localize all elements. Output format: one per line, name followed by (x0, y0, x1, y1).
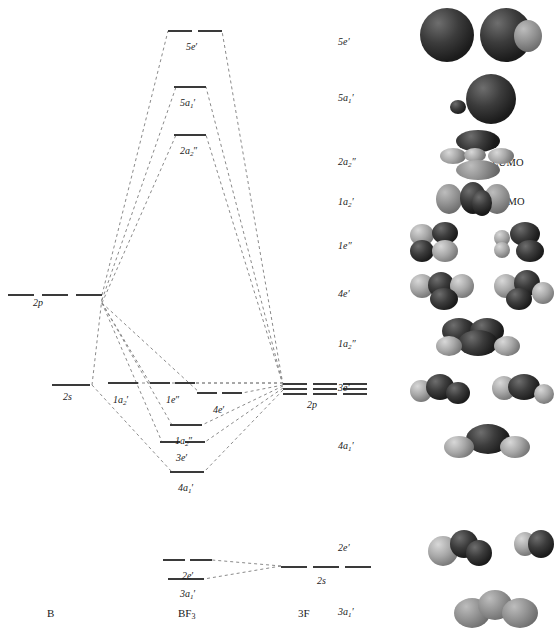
level-label-f-2s: 2s (317, 576, 326, 586)
energy-level-f-2s (345, 566, 371, 568)
orbital-row-label-row-5a1-prime: 5a1′ (338, 92, 354, 105)
energy-level-2e-prime (190, 559, 212, 561)
orbital-picture-5e-prime (418, 6, 554, 68)
lobe (466, 74, 516, 124)
energy-level-b-2s (52, 384, 90, 386)
energy-level-f-2s (313, 566, 339, 568)
orbital-row-label-row-1a2-prime: 1a2′ (338, 196, 354, 209)
orbital-picture-1a2-dprime (432, 318, 548, 364)
axis-label-bf3: BF3 (178, 607, 195, 621)
orbital-picture-2e-prime (428, 530, 554, 570)
level-label-b-2p: 2p (33, 298, 43, 308)
energy-level-f-2p (283, 388, 307, 390)
lobe (494, 242, 510, 258)
energy-level-1e-dprime (175, 382, 195, 384)
energy-level-4e-prime (197, 392, 217, 394)
corr-f2p-2a2 (206, 135, 283, 385)
level-label-1a2-dprime: 1a2″ (175, 436, 193, 448)
axis-label-3f: 3F (298, 607, 310, 619)
corr-f2p-4a1 (204, 390, 283, 472)
lobe (440, 148, 466, 164)
lobe (444, 436, 474, 458)
corr-b2p-5a1 (102, 87, 176, 300)
lobe (500, 436, 530, 458)
orbital-row-label-row-5e-prime: 5e′ (338, 36, 350, 47)
lobe (432, 240, 458, 262)
lobe (450, 100, 466, 114)
energy-level-1a2-prime (108, 382, 138, 384)
lobe (516, 240, 544, 262)
corr-f2p-5a1 (206, 87, 283, 385)
corr-b2p-2a2 (102, 135, 176, 303)
orbital-picture-1e-dprime (410, 222, 554, 264)
corr-b2p-5e (102, 31, 168, 295)
level-label-3a1-prime: 3a1′ (180, 589, 196, 601)
level-label-4a1-prime: 4a1′ (178, 483, 194, 495)
level-label-1e-dprime: 1e″ (166, 395, 180, 405)
energy-level-f-2p (313, 388, 337, 390)
orbital-picture-5a1-prime (448, 74, 548, 126)
lobe (472, 190, 492, 216)
level-label-4e-prime: 4e′ (213, 405, 225, 415)
lobe (528, 530, 554, 558)
level-label-b-2s: 2s (63, 392, 72, 402)
energy-level-1a2-dprime (170, 424, 202, 426)
lobe (458, 330, 498, 356)
orbital-picture-2a2-dprime (434, 130, 544, 182)
lobe (506, 288, 532, 310)
orbital-row-label-row-4a1-prime: 4a1′ (338, 440, 354, 453)
lobe (436, 184, 462, 214)
energy-level-b-2p (8, 294, 34, 296)
lobe (456, 160, 500, 180)
corr-b2p-4e (102, 303, 200, 393)
energy-level-4a1-prime (170, 471, 204, 473)
orbital-picture-1a2-prime (434, 182, 544, 218)
orbital-row-label-row-2e-prime: 2e′ (338, 542, 350, 553)
orbital-picture-3e-prime (410, 372, 554, 410)
energy-level-f-2p (313, 393, 337, 395)
level-label-3e-prime: 3e′ (176, 453, 188, 463)
energy-level-f-2p (343, 393, 367, 395)
corr-f2p-5e (222, 31, 283, 385)
lobe (514, 20, 542, 52)
orbital-row-label-row-1e-dprime: 1e″ (338, 240, 352, 251)
energy-level-f-2s (281, 566, 307, 568)
level-label-f-2p: 2p (307, 400, 317, 410)
level-label-2e-prime: 2e′ (182, 571, 194, 581)
energy-level-5e-prime (198, 30, 222, 32)
orbital-row-label-row-3e-prime: 3e′ (338, 382, 350, 393)
level-label-2a2-dprime: 2a2″ (180, 146, 198, 158)
orbital-row-label-row-1a2-dprime: 1a2″ (338, 338, 356, 351)
corr-f2s-2e (212, 560, 281, 566)
energy-level-f-2p (313, 383, 337, 385)
corr-f2s-3a1 (204, 566, 281, 579)
orbital-picture-4e-prime (410, 270, 554, 314)
lobe (430, 288, 458, 310)
energy-level-b-2p (76, 294, 102, 296)
corr-f2p-3e (205, 388, 283, 442)
energy-level-5a1-prime (174, 86, 206, 88)
lobe (534, 384, 554, 404)
energy-level-5e-prime (168, 30, 192, 32)
energy-level-f-2p (283, 383, 307, 385)
lobe (466, 540, 492, 566)
energy-level-2a2-dprime (174, 134, 206, 136)
energy-level-f-2p (283, 393, 307, 395)
energy-level-b-2p (42, 294, 68, 296)
energy-level-2e-prime (163, 559, 185, 561)
orbital-row-label-row-3a1-prime: 3a1′ (338, 606, 354, 619)
level-label-5e-prime: 5e′ (186, 42, 198, 52)
lobe (420, 8, 474, 62)
energy-level-1e-dprime (150, 382, 170, 384)
level-label-1a2-prime: 1a2′ (113, 395, 129, 407)
orbital-picture-4a1-prime (442, 424, 546, 462)
lobe (494, 336, 520, 356)
corr-b2s-4a1 (92, 385, 172, 472)
lobe (502, 598, 538, 628)
lobe (436, 336, 462, 356)
corr-b2s-up (92, 298, 102, 385)
lobe (532, 282, 554, 304)
lobe (410, 240, 434, 262)
corr-b2p-3e (102, 303, 162, 442)
lobe (446, 382, 470, 404)
